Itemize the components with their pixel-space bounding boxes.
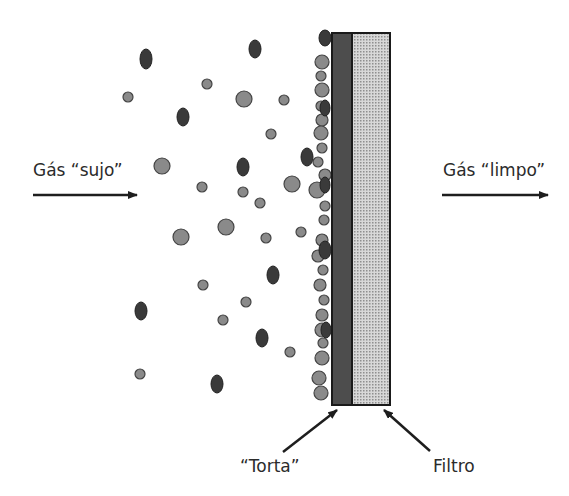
coarse-particle bbox=[319, 30, 331, 46]
fine-particle bbox=[312, 371, 326, 385]
fine-particle bbox=[314, 279, 326, 291]
coarse-particle bbox=[301, 148, 313, 166]
coarse-particle bbox=[249, 40, 261, 58]
fine-particle bbox=[316, 71, 326, 81]
fine-particle bbox=[319, 295, 329, 305]
fine-particle bbox=[123, 92, 133, 102]
fine-particle bbox=[318, 338, 328, 348]
fine-particle bbox=[285, 347, 295, 357]
coarse-particle bbox=[211, 375, 223, 393]
coarse-particle bbox=[320, 100, 330, 116]
fine-particle bbox=[315, 55, 329, 69]
fine-particle bbox=[316, 309, 328, 321]
fine-particle bbox=[279, 95, 289, 105]
dirty-gas-label: Gás “sujo” bbox=[33, 160, 123, 180]
coarse-particle bbox=[319, 241, 331, 259]
filter-medium bbox=[352, 33, 390, 405]
fine-particle bbox=[314, 386, 328, 400]
fine-particle bbox=[173, 229, 189, 245]
fine-particle bbox=[296, 227, 306, 237]
coarse-particle bbox=[135, 302, 147, 320]
coarse-particle bbox=[267, 266, 279, 284]
fine-particle bbox=[317, 143, 327, 153]
fine-particle bbox=[315, 351, 329, 365]
fine-particle bbox=[261, 233, 271, 243]
coarse-particle bbox=[237, 158, 249, 176]
fine-particle bbox=[255, 198, 265, 208]
cake-layer bbox=[332, 33, 352, 405]
coarse-particle bbox=[140, 49, 152, 69]
fine-particle bbox=[319, 215, 329, 225]
fine-particle bbox=[284, 176, 300, 192]
filter-pointer-arrow bbox=[384, 410, 430, 451]
fine-particle bbox=[320, 201, 330, 211]
fine-particle bbox=[202, 79, 212, 89]
fine-particle bbox=[313, 157, 323, 167]
fine-particle bbox=[236, 91, 252, 107]
clean-gas-label: Gás “limpo” bbox=[443, 160, 545, 180]
coarse-particles bbox=[135, 30, 331, 393]
coarse-particle bbox=[177, 108, 189, 126]
fine-particle bbox=[218, 315, 228, 325]
fine-particles bbox=[123, 55, 331, 400]
fine-particle bbox=[315, 83, 329, 97]
cake-label: “Torta” bbox=[240, 456, 300, 476]
fine-particle bbox=[241, 297, 251, 307]
fine-particle bbox=[314, 126, 328, 140]
fine-particle bbox=[198, 280, 208, 290]
fine-particle bbox=[135, 369, 145, 379]
coarse-particle bbox=[256, 329, 268, 347]
fine-particle bbox=[238, 187, 248, 197]
fine-particle bbox=[266, 129, 276, 139]
filter-label: Filtro bbox=[433, 456, 475, 476]
coarse-particle bbox=[320, 177, 330, 193]
cake-pointer-arrow bbox=[283, 410, 337, 452]
gas-filtration-diagram bbox=[0, 0, 569, 496]
fine-particle bbox=[154, 158, 170, 174]
coarse-particle bbox=[321, 322, 331, 338]
fine-particle bbox=[218, 219, 234, 235]
fine-particle bbox=[318, 265, 328, 275]
fine-particle bbox=[197, 182, 207, 192]
